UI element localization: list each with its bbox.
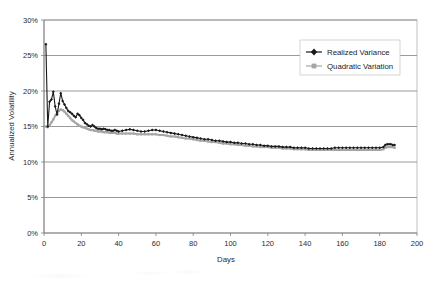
data-point-marker [52,118,54,120]
data-point-marker [140,133,142,135]
data-point-marker [91,129,93,131]
data-point-marker [155,133,157,135]
data-point-marker [73,120,75,122]
legend-label-realized-variance: Realized Variance [327,48,390,57]
data-point-marker [63,110,65,112]
x-tick-label: 0 [42,239,46,248]
x-tick-label: 80 [189,239,197,248]
data-point-marker [121,133,123,135]
y-tick-label: 5% [27,193,38,202]
data-point-marker [151,133,153,135]
data-point-marker [108,132,110,134]
x-tick-label: 160 [336,239,349,248]
data-point-marker [181,137,183,139]
data-point-marker [166,135,168,137]
data-point-marker [84,127,86,129]
y-tick-label: 30% [23,16,38,25]
data-point-marker [394,147,396,149]
x-tick-label: 200 [411,239,424,248]
square-marker-icon [312,64,317,69]
data-point-marker [48,124,50,126]
legend: Realized Variance Quadratic Variation [300,40,400,75]
y-tick-label: 20% [23,87,38,96]
data-point-marker [54,115,56,117]
data-point-marker [50,121,52,123]
data-point-marker [144,133,146,135]
data-point-marker [65,113,67,115]
data-point-marker [132,133,134,135]
x-tick-label: 180 [373,239,386,248]
data-point-marker [69,117,71,119]
x-tick-label: 40 [114,239,122,248]
x-tick-label: 60 [152,239,160,248]
data-point-marker [82,126,84,128]
data-point-marker [162,134,164,136]
x-tick-label: 140 [299,239,312,248]
data-point-marker [129,133,131,135]
x-tick-label: 100 [224,239,237,248]
x-axis-title: Days [217,255,235,264]
y-axis-title: Annualized Volatility [7,91,16,160]
y-tick-label: 25% [23,51,38,60]
data-point-marker [99,130,101,132]
y-tick-label: 15% [23,122,38,131]
x-tick-label: 20 [77,239,85,248]
legend-label-quadratic-variation: Quadratic Variation [327,62,393,71]
y-tick-label: 0% [27,229,38,238]
data-point-marker [125,133,127,135]
data-point-marker [177,136,179,138]
data-point-marker [185,137,187,139]
data-point-marker [147,133,149,135]
data-point-marker [114,132,116,134]
data-point-marker [159,134,161,136]
y-axis-tick-labels: 0%5%10%15%20%25%30% [23,16,38,238]
data-point-marker [136,133,138,135]
data-point-marker [67,115,69,117]
data-point-marker [173,135,175,137]
chart-figure: 020406080100120140160180200 0%5%10%15%20… [0,0,442,288]
line-chart: 020406080100120140160180200 0%5%10%15%20… [0,0,442,288]
y-tick-label: 10% [23,158,38,167]
x-axis-tick-labels: 020406080100120140160180200 [42,239,423,248]
data-point-marker [170,135,172,137]
x-tick-label: 120 [262,239,275,248]
